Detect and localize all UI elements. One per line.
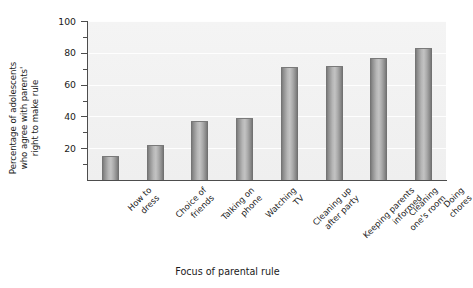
x-axis-line [87,180,447,181]
x-tick-label: Cleaning upafter party [311,185,361,235]
bar [326,66,343,180]
x-tick-label: Choice offriends [174,185,217,228]
gridline-100 [88,21,446,22]
y-tick-major-80 [81,53,88,54]
y-tick-minor-10 [83,164,88,165]
y-tick-major-40 [81,116,88,117]
y-tick-minor-30 [83,132,88,133]
plot-area [88,21,446,180]
bar [415,48,432,180]
y-tick-minor-90 [83,37,88,38]
y-tick-label-80: 80 [16,48,76,57]
y-tick-label-40: 40 [16,112,76,121]
bar [191,121,208,180]
y-tick-major-20 [81,148,88,149]
y-tick-minor-50 [83,101,88,102]
y-tick-major-100 [81,21,88,22]
bar [370,58,387,180]
x-axis-title: Focus of parental rule [0,266,455,277]
bar [236,118,253,180]
x-tick-label: Talking onphone [219,185,264,230]
y-tick-label-60: 60 [16,80,76,89]
gridline-60 [88,85,446,86]
bar [102,156,119,180]
x-tick-label: WatchingTV [263,185,305,227]
y-tick-minor-70 [83,69,88,70]
gridline-20 [88,148,446,149]
y-tick-major-60 [81,85,88,86]
gridline-40 [88,116,446,117]
x-tick-label: How todress [126,185,162,221]
y-tick-label-100: 100 [16,17,76,26]
bar [147,145,164,180]
gridline-80 [88,53,446,54]
y-tick-label-20: 20 [16,144,76,153]
x-tick-label: Doingchores [439,185,473,220]
bar [281,67,298,180]
